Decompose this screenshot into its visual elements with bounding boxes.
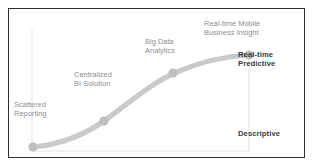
data-point-centralized <box>99 116 108 125</box>
stage-label-scattered: Scattered Reporting <box>14 101 47 118</box>
axis-label-realtime-predictive: Real-time Predictive <box>238 50 275 68</box>
figure-root: Scattered Reporting Centralized BI Solut… <box>0 0 315 166</box>
stage-label-centralized: Centralized BI Solution <box>74 71 112 88</box>
data-point-scattered <box>28 142 37 151</box>
data-point-bigdata <box>168 68 177 77</box>
stage-label-realtime: Real-time Mobile Business Insight <box>204 20 260 37</box>
axis-label-descriptive: Descriptive <box>238 129 280 138</box>
plot-area: Scattered Reporting Centralized BI Solut… <box>9 9 304 157</box>
trend-curve <box>33 55 249 147</box>
chart-frame: Scattered Reporting Centralized BI Solut… <box>8 8 305 158</box>
stage-label-bigdata: Big Data Analytics <box>145 38 175 55</box>
